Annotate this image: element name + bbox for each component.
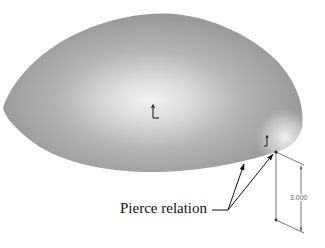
diagram-canvas: Pierce relation 3.000 [0, 0, 325, 248]
pierce-relation-label: Pierce relation [120, 201, 207, 216]
dimension-value: 3.000 [289, 194, 309, 201]
dimension-3000 [276, 152, 304, 233]
